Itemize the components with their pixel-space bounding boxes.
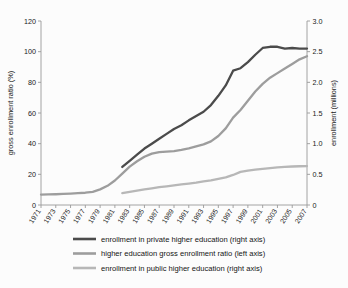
y-tick-label-left: 60: [28, 109, 36, 118]
y-tick-label-right: 1.5: [313, 109, 323, 118]
y-tick-label-right: 1.0: [313, 139, 323, 148]
y-tick-label-left: 80: [28, 78, 36, 87]
line-chart: 02040608010012000.51.01.52.02.53.0197119…: [0, 0, 348, 288]
y-tick-label-left: 40: [28, 139, 36, 148]
legend-label: enrollment in public higher education (r…: [101, 264, 263, 273]
y-tick-label-left: 20: [28, 170, 36, 179]
y-tick-label-right: 2.5: [313, 47, 323, 56]
chart-legend: enrollment in private higher education (…: [73, 235, 266, 273]
y-tick-label-right: 2.0: [313, 78, 323, 87]
chart-figure: 02040608010012000.51.01.52.02.53.0197119…: [0, 0, 348, 288]
y-axis-left-title: gross enrollment ratio (%): [6, 71, 15, 156]
y-axis-right-title: enrollment (millions): [329, 80, 338, 146]
y-tick-label-right: 0.5: [313, 170, 323, 179]
y-tick-label-left: 120: [24, 17, 36, 26]
chart-background: [0, 0, 348, 288]
y-tick-label-left: 100: [24, 47, 36, 56]
y-tick-label-right: 3.0: [313, 17, 323, 26]
legend-label: enrollment in private higher education (…: [101, 235, 266, 244]
y-tick-label-right: 0: [313, 201, 317, 210]
legend-label: higher education gross enrollment ratio …: [101, 249, 266, 258]
